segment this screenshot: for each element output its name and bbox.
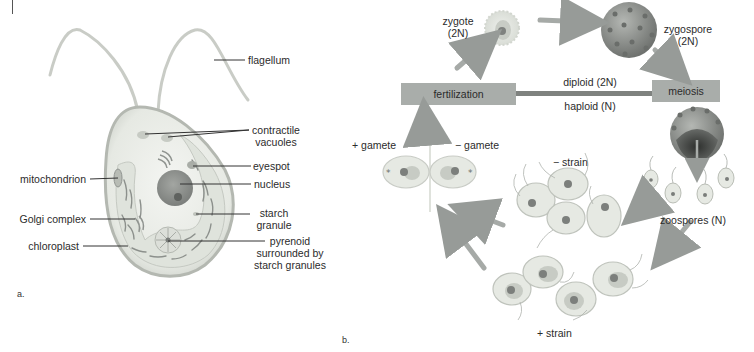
gametes-fusing: * *: [383, 110, 476, 212]
label-starch-granule: starch granule: [254, 207, 294, 231]
label-mitochondrion: mitochondrion: [0, 173, 86, 185]
zygote: [485, 11, 519, 45]
label-pyrenoid-line3: starch granules: [252, 259, 328, 271]
label-contractile-vacuoles: contractile vacuoles: [249, 124, 303, 148]
label-zygospore-line1: zygospore: [658, 23, 718, 35]
label-zoospores: zoospores (N): [660, 214, 726, 226]
label-zygote: zygote (2N): [440, 15, 476, 39]
label-starch-line2: granule: [254, 219, 294, 231]
label-haploid: haploid (N): [540, 100, 640, 112]
panel-b-letter: b.: [342, 335, 350, 345]
label-contractile-line1: contractile: [249, 124, 303, 136]
label-contractile-line2: vacuoles: [249, 136, 303, 148]
label-golgi-complex: Golgi complex: [0, 213, 86, 225]
label-minus-gamete: − gamete: [455, 139, 499, 151]
label-fertilization: fertilization: [401, 88, 516, 100]
chlamydomonas-cell: [50, 29, 248, 276]
label-pyrenoid-line1: pyrenoid: [252, 235, 328, 247]
figure-artwork: * *: [0, 0, 754, 352]
label-plus-strain: + strain: [537, 327, 572, 339]
label-pyrenoid: pyrenoid surrounded by starch granules: [252, 235, 328, 271]
svg-text:*: *: [386, 168, 391, 178]
label-nucleus: nucleus: [254, 178, 290, 190]
label-plus-gamete: + gamete: [352, 139, 396, 151]
label-diploid: diploid (2N): [540, 76, 640, 88]
label-meiosis: meiosis: [652, 85, 720, 97]
svg-text:*: *: [468, 168, 473, 178]
label-pyrenoid-line2: surrounded by: [252, 247, 328, 259]
panel-a-letter: a.: [17, 289, 25, 299]
label-flagellum: flagellum: [248, 54, 290, 66]
label-eyespot: eyespot: [253, 160, 290, 172]
label-starch-line1: starch: [254, 207, 294, 219]
label-zygospore-line2: (2N): [658, 35, 718, 47]
zygospore: [601, 2, 657, 58]
label-zygote-line2: (2N): [440, 27, 476, 39]
label-minus-strain: − strain: [553, 156, 588, 168]
label-chloroplast: chloroplast: [0, 240, 79, 252]
label-zygote-line1: zygote: [440, 15, 476, 27]
zoospores-small: [644, 168, 734, 204]
germinating-zygospore: [670, 107, 724, 174]
label-zygospore: zygospore (2N): [658, 23, 718, 47]
